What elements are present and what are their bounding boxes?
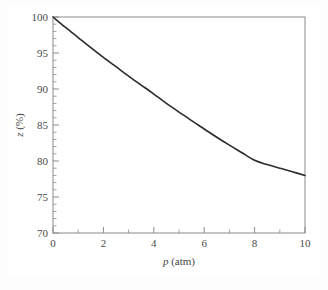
y-axis-title: z (%) — [13, 113, 26, 138]
x-axis-tick-label: 6 — [201, 237, 207, 249]
x-axis-tick-label: 10 — [300, 237, 312, 249]
x-axis-title-units: (atm) — [168, 255, 195, 268]
x-axis-tick-label: 2 — [101, 237, 107, 249]
figure-canvas: 7075808590951000246810p (atm)z (%) — [7, 6, 321, 278]
chart-svg: 7075808590951000246810p (atm)z (%) — [7, 6, 321, 278]
y-axis-tick-label: 70 — [37, 227, 49, 239]
y-axis-tick-label: 75 — [37, 191, 49, 203]
y-axis-tick-label: 80 — [37, 155, 49, 167]
x-axis-title: p (atm) — [162, 255, 195, 268]
y-axis-tick-label: 100 — [32, 11, 49, 23]
figure-container: 7075808590951000246810p (atm)z (%) — [0, 0, 328, 290]
y-axis-tick-label: 85 — [37, 119, 49, 131]
y-axis-title-units: (%) — [13, 113, 26, 133]
x-axis-tick-label: 8 — [252, 237, 258, 249]
y-axis-tick-label: 90 — [37, 83, 49, 95]
x-axis-tick-label: 4 — [151, 237, 157, 249]
plot-area-background — [53, 17, 305, 233]
y-axis-tick-label: 95 — [37, 47, 49, 59]
x-axis-tick-label: 0 — [50, 237, 56, 249]
